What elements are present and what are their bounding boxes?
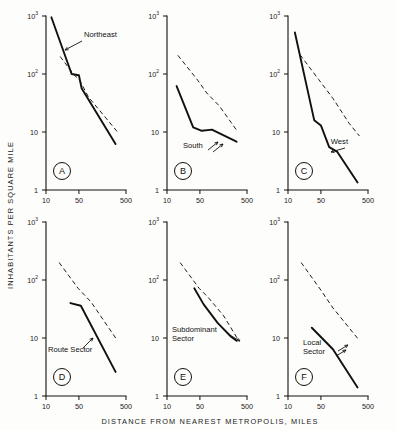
panel-E: 1031021011050500E (148, 216, 253, 411)
figure-container: 1031021011050500A1031021011050500B103102… (0, 0, 396, 430)
curve-label-route-sector: Route Sector (48, 345, 93, 354)
y-tick-label: 102 (27, 274, 38, 284)
x-tick-label: 50 (75, 402, 83, 411)
y-axis-title: INHABITANTS PER SQUARE MILE (6, 141, 15, 289)
y-tick-label: 102 (148, 68, 159, 78)
x-tick-label: 500 (120, 402, 132, 411)
series-solid (295, 32, 358, 182)
x-tick-label: 50 (317, 196, 325, 205)
x-tick-label: 50 (196, 196, 204, 205)
arrow-northeast (65, 41, 82, 50)
y-tick-label: 103 (148, 10, 159, 20)
x-tick-label: 500 (241, 196, 253, 205)
x-tick-label: 500 (120, 196, 132, 205)
y-tick-label: 10 (30, 128, 38, 137)
curve-label-subdominant-line2: Sector (172, 334, 194, 343)
series-dashed (301, 263, 359, 341)
y-tick-label: 1 (276, 392, 280, 401)
series-solid (177, 86, 237, 142)
y-tick-label: 1 (155, 186, 159, 195)
panel-letter: D (59, 372, 66, 382)
y-tick-label: 103 (27, 10, 38, 20)
series-solid (312, 328, 358, 388)
x-tick-label: 10 (163, 196, 171, 205)
x-tick-label: 500 (362, 402, 374, 411)
arrow-local-2 (336, 350, 346, 356)
panel-B: 1031021011050500B (148, 10, 253, 205)
panel-letter: B (180, 166, 186, 176)
y-tick-label: 102 (269, 68, 280, 78)
x-tick-label: 50 (196, 402, 204, 411)
series-solid (70, 303, 115, 372)
y-tick-label: 102 (27, 68, 38, 78)
x-tick-label: 10 (163, 402, 171, 411)
y-tick-label: 10 (151, 334, 159, 343)
curve-label-local-line2: Sector (303, 347, 325, 356)
y-tick-label: 103 (27, 216, 38, 226)
x-tick-label: 10 (42, 402, 50, 411)
x-axis-title: DISTANCE FROM NEAREST METROPOLIS, MILES (101, 417, 318, 426)
y-tick-label: 103 (269, 10, 280, 20)
x-tick-label: 500 (362, 196, 374, 205)
x-tick-label: 10 (42, 196, 50, 205)
x-tick-label: 50 (75, 196, 83, 205)
x-tick-label: 10 (284, 196, 292, 205)
panel-letter: C (301, 166, 308, 176)
series-dashed (59, 263, 117, 341)
x-tick-label: 10 (284, 402, 292, 411)
y-tick-label: 1 (34, 186, 38, 195)
y-tick-label: 10 (272, 128, 280, 137)
x-tick-label: 50 (317, 402, 325, 411)
panel-letter: F (301, 372, 307, 382)
curve-label-northeast: Northeast (84, 30, 118, 39)
panel-letter: E (180, 372, 186, 382)
multi-panel-loglog-chart: 1031021011050500A1031021011050500B103102… (0, 0, 396, 430)
y-tick-label: 103 (269, 216, 280, 226)
y-tick-label: 10 (151, 128, 159, 137)
y-tick-label: 10 (272, 334, 280, 343)
y-tick-label: 10 (30, 334, 38, 343)
panel-letter: A (59, 166, 65, 176)
y-tick-label: 102 (269, 274, 280, 284)
series-dashed (178, 55, 238, 132)
panel-A: 1031021011050500A (27, 10, 132, 205)
y-tick-label: 1 (155, 392, 159, 401)
panel-C: 1031021011050500C (269, 10, 374, 205)
y-tick-label: 1 (276, 186, 280, 195)
x-tick-label: 500 (241, 402, 253, 411)
curve-label-local-line1: Local (303, 338, 321, 347)
curve-label-subdominant-line1: Subdominant (172, 325, 218, 334)
y-tick-label: 103 (148, 216, 159, 226)
curve-label-south: South (183, 141, 203, 150)
panel-D: 1031021011050500D (27, 216, 132, 411)
panel-F: 1031021011050500F (269, 216, 374, 411)
y-tick-label: 1 (34, 392, 38, 401)
y-tick-label: 102 (148, 274, 159, 284)
curve-label-west: West (331, 137, 349, 146)
